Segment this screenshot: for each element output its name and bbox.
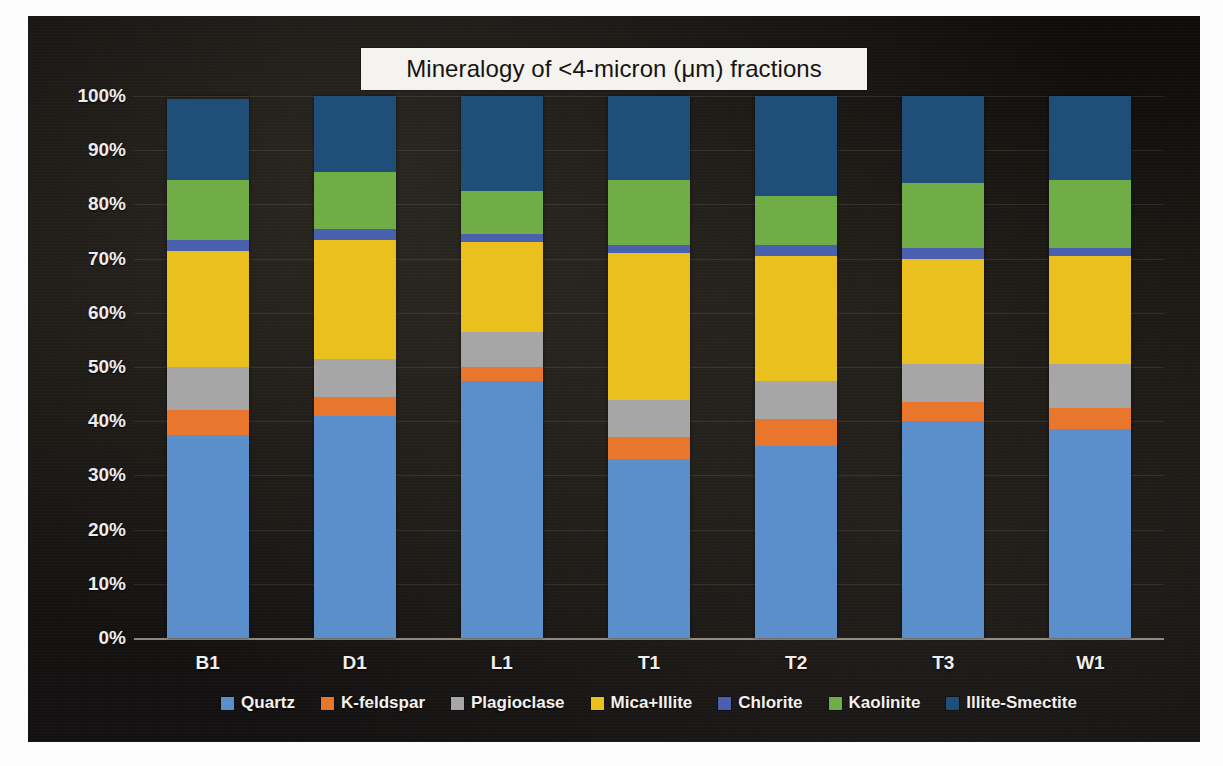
x-axis-tick-label: T1 <box>593 652 705 674</box>
legend-swatch-icon <box>591 697 604 710</box>
bar-segment[interactable] <box>755 256 837 381</box>
legend-label: Plagioclase <box>471 693 565 713</box>
bar-slot <box>152 96 264 638</box>
legend-item[interactable]: Kaolinite <box>829 693 921 713</box>
y-axis-tick-label: 90% <box>40 139 126 161</box>
bar-segment[interactable] <box>902 421 984 638</box>
legend-item[interactable]: Quartz <box>221 693 295 713</box>
chart-panel: Mineralogy of <4-micron (μm) fractions 1… <box>28 16 1200 742</box>
legend-swatch-icon <box>946 697 959 710</box>
bar-segment[interactable] <box>167 99 249 180</box>
bar-segment[interactable] <box>167 410 249 434</box>
bar-segment[interactable] <box>608 437 690 459</box>
bar-segment[interactable] <box>167 367 249 410</box>
y-axis-tick-label: 70% <box>40 248 126 270</box>
bar-segment[interactable] <box>608 459 690 638</box>
bar-segment[interactable] <box>755 245 837 256</box>
stacked-bar[interactable] <box>1049 96 1131 638</box>
x-axis-tick-label: T2 <box>740 652 852 674</box>
bar-segment[interactable] <box>1049 364 1131 407</box>
stacked-bar[interactable] <box>461 96 543 638</box>
bar-segment[interactable] <box>167 240 249 251</box>
legend-label: Mica+Illite <box>611 693 693 713</box>
y-axis-tick-label: 20% <box>40 519 126 541</box>
bar-segment[interactable] <box>314 240 396 359</box>
bar-segment[interactable] <box>314 96 396 172</box>
bar-segment[interactable] <box>461 381 543 638</box>
bar-segment[interactable] <box>755 196 837 245</box>
bar-segment[interactable] <box>608 245 690 253</box>
bar-segment[interactable] <box>902 259 984 365</box>
bar-segment[interactable] <box>461 332 543 367</box>
legend-item[interactable]: Illite-Smectite <box>946 693 1077 713</box>
bar-segment[interactable] <box>1049 248 1131 256</box>
legend-swatch-icon <box>718 697 731 710</box>
legend-label: K-feldspar <box>341 693 425 713</box>
bar-segment[interactable] <box>755 96 837 196</box>
legend-label: Chlorite <box>738 693 802 713</box>
bar-segment[interactable] <box>167 251 249 368</box>
legend-swatch-icon <box>321 697 334 710</box>
bar-segment[interactable] <box>1049 96 1131 180</box>
legend-label: Quartz <box>241 693 295 713</box>
legend-item[interactable]: Plagioclase <box>451 693 565 713</box>
bar-segment[interactable] <box>1049 408 1131 430</box>
y-axis-tick-label: 40% <box>40 410 126 432</box>
chart-legend: QuartzK-feldsparPlagioclaseMica+IlliteCh… <box>134 688 1164 718</box>
bar-segment[interactable] <box>1049 256 1131 364</box>
bar-segment[interactable] <box>755 381 837 419</box>
bar-segment[interactable] <box>314 416 396 638</box>
bar-segment[interactable] <box>902 96 984 183</box>
y-axis-tick-label: 30% <box>40 464 126 486</box>
bar-segment[interactable] <box>461 96 543 191</box>
bar-segment[interactable] <box>902 402 984 421</box>
stacked-bar[interactable] <box>755 96 837 638</box>
legend-swatch-icon <box>221 697 234 710</box>
bar-segment[interactable] <box>1049 429 1131 638</box>
legend-label: Illite-Smectite <box>966 693 1077 713</box>
bar-segment[interactable] <box>461 234 543 242</box>
legend-swatch-icon <box>451 697 464 710</box>
y-axis-tick-label: 10% <box>40 573 126 595</box>
bar-slot <box>1034 96 1146 638</box>
y-axis-tick-label: 50% <box>40 356 126 378</box>
bar-segment[interactable] <box>314 172 396 229</box>
bar-segment[interactable] <box>314 397 396 416</box>
gridline <box>134 638 1164 640</box>
stacked-bar-group <box>134 96 1164 638</box>
x-axis-tick-label: L1 <box>446 652 558 674</box>
bar-segment[interactable] <box>608 96 690 180</box>
legend-item[interactable]: K-feldspar <box>321 693 425 713</box>
x-axis-tick-label: B1 <box>152 652 264 674</box>
bar-segment[interactable] <box>755 446 837 638</box>
bar-segment[interactable] <box>314 229 396 240</box>
bar-segment[interactable] <box>461 242 543 331</box>
bar-segment[interactable] <box>902 248 984 259</box>
y-axis-tick-label: 100% <box>40 85 126 107</box>
x-axis-tick-label: T3 <box>887 652 999 674</box>
bar-slot <box>446 96 558 638</box>
bar-segment[interactable] <box>608 253 690 399</box>
stacked-bar[interactable] <box>902 96 984 638</box>
chart-title: Mineralogy of <4-micron (μm) fractions <box>361 48 867 90</box>
x-axis-tick-label: D1 <box>299 652 411 674</box>
bar-segment[interactable] <box>608 400 690 438</box>
bar-segment[interactable] <box>167 180 249 240</box>
bar-segment[interactable] <box>608 180 690 245</box>
bar-segment[interactable] <box>167 435 249 638</box>
bar-segment[interactable] <box>1049 180 1131 248</box>
legend-item[interactable]: Chlorite <box>718 693 802 713</box>
bar-segment[interactable] <box>902 364 984 402</box>
stacked-bar[interactable] <box>608 96 690 638</box>
stacked-bar[interactable] <box>167 96 249 638</box>
y-axis-tick-label: 80% <box>40 193 126 215</box>
bar-segment[interactable] <box>902 183 984 248</box>
screenshot-root: Mineralogy of <4-micron (μm) fractions 1… <box>0 0 1223 766</box>
stacked-bar[interactable] <box>314 96 396 638</box>
bar-segment[interactable] <box>314 359 396 397</box>
bar-segment[interactable] <box>461 191 543 234</box>
bar-segment[interactable] <box>461 367 543 381</box>
legend-item[interactable]: Mica+Illite <box>591 693 693 713</box>
bar-segment[interactable] <box>755 419 837 446</box>
y-axis-tick-label: 60% <box>40 302 126 324</box>
